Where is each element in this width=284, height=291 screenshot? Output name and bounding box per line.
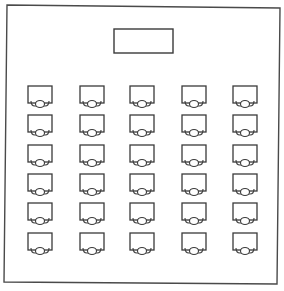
student-desk: [233, 203, 257, 225]
student-desk: [233, 115, 257, 137]
student-desk: [182, 203, 206, 225]
student-desk: [80, 174, 104, 196]
student-desk: [80, 115, 104, 137]
student-desk: [182, 233, 206, 255]
student-desk: [28, 145, 52, 167]
student-desk: [80, 203, 104, 225]
student-desk: [28, 115, 52, 137]
classroom-diagram: [0, 0, 284, 291]
student-desk: [233, 233, 257, 255]
student-desk: [182, 145, 206, 167]
front-board: [114, 29, 173, 53]
student-desk: [130, 86, 154, 108]
student-desk: [28, 233, 52, 255]
student-desk: [130, 233, 154, 255]
student-desk: [233, 86, 257, 108]
desk-grid: [28, 86, 257, 255]
student-desk: [130, 145, 154, 167]
student-desk: [80, 145, 104, 167]
student-desk: [130, 203, 154, 225]
student-desk: [28, 174, 52, 196]
student-desk: [233, 145, 257, 167]
student-desk: [28, 86, 52, 108]
student-desk: [233, 174, 257, 196]
student-desk: [182, 86, 206, 108]
student-desk: [80, 233, 104, 255]
student-desk: [182, 174, 206, 196]
student-desk: [80, 86, 104, 108]
student-desk: [182, 115, 206, 137]
student-desk: [130, 174, 154, 196]
student-desk: [28, 203, 52, 225]
student-desk: [130, 115, 154, 137]
